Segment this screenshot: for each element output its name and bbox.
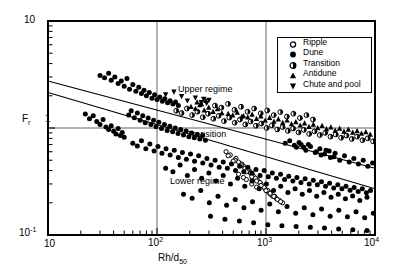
legend-label: Transition bbox=[303, 58, 340, 68]
annotation-upper-regime: Upper regime bbox=[178, 84, 233, 94]
y-tick-label-0-1: 10-1 bbox=[19, 226, 36, 238]
legend-item-ripple: Ripple bbox=[285, 38, 371, 48]
x-tick-label-100: 102 bbox=[148, 236, 163, 248]
legend-label: Antidune bbox=[303, 68, 337, 78]
annotation-transition: Transition bbox=[187, 129, 226, 139]
legend-label: Dune bbox=[303, 47, 323, 57]
x-tick-label-1000: 103 bbox=[257, 236, 272, 248]
legend-item-chute-and-pool: Chute and pool bbox=[285, 80, 371, 90]
x-tick-label-10: 10 bbox=[44, 238, 55, 249]
x-tick-label-10000: 104 bbox=[364, 236, 379, 248]
legend-box: Ripple Dune Transition Antidune Chute an… bbox=[277, 37, 372, 93]
y-tick-label-1: 1 bbox=[45, 113, 51, 124]
legend-label: Chute and pool bbox=[303, 79, 361, 89]
filled-triangle-down-icon bbox=[288, 82, 300, 91]
x-axis-label: Rh/d50 bbox=[158, 252, 187, 265]
legend-label: Ripple bbox=[303, 37, 327, 47]
annotation-lower-regime: Lower regime bbox=[170, 176, 225, 186]
y-tick-label-10: 10 bbox=[24, 14, 35, 25]
y-axis-label: Fr bbox=[22, 113, 30, 126]
